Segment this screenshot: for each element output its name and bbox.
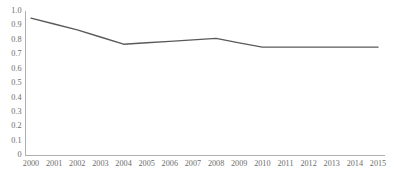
y-tick-label: 0.5	[11, 78, 21, 87]
x-tick-label: 2008	[208, 159, 224, 168]
y-tick-label: 0.6	[11, 64, 21, 73]
line-chart: 1.00.90.80.70.60.50.40.30.20.10 20002001…	[0, 0, 393, 176]
x-tick-label: 2002	[69, 159, 85, 168]
y-tick-label: 0.4	[11, 93, 21, 102]
x-tick-label: 2003	[92, 159, 108, 168]
x-tick-label: 2011	[277, 159, 293, 168]
x-tick-label: 2015	[370, 159, 386, 168]
x-tick-label: 2012	[300, 159, 316, 168]
y-tick-label: 0	[17, 150, 21, 159]
y-tick-label: 0.8	[11, 35, 21, 44]
y-tick-label: 0.1	[11, 136, 21, 145]
x-tick-label: 2009	[231, 159, 247, 168]
x-tick-label: 2000	[23, 159, 39, 168]
plot-background	[0, 0, 393, 176]
x-tick-label: 2004	[115, 159, 131, 168]
x-tick-label: 2007	[185, 159, 201, 168]
x-tick-label: 2010	[254, 159, 270, 168]
y-tick-label: 0.7	[11, 49, 21, 58]
y-tick-label: 0.3	[11, 107, 21, 116]
y-tick-label: 0.2	[11, 121, 21, 130]
chart-canvas: 1.00.90.80.70.60.50.40.30.20.10 20002001…	[0, 0, 393, 176]
y-tick-label: 0.9	[11, 20, 21, 29]
y-tick-label: 1.0	[11, 6, 21, 15]
y-axis-tick-labels: 1.00.90.80.70.60.50.40.30.20.10	[11, 6, 21, 160]
x-tick-label: 2001	[46, 159, 62, 168]
x-tick-label: 2006	[162, 159, 178, 168]
x-tick-label: 2005	[138, 159, 154, 168]
x-tick-label: 2013	[324, 159, 340, 168]
x-tick-label: 2014	[347, 159, 363, 168]
